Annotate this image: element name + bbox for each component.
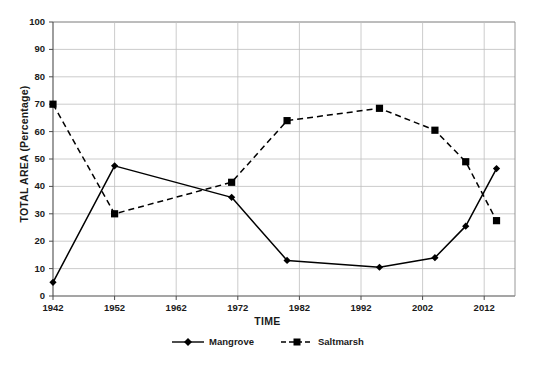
x-axis-tick-label: 1952 [95,302,135,313]
x-axis-tick-label: 2002 [403,302,443,313]
y-axis-tick-label: 0 [15,290,45,301]
y-axis-tick-label: 40 [15,180,45,191]
legend-label-saltmarsh: Saltmarsh [318,337,364,347]
y-axis-tick-label: 50 [15,153,45,164]
y-axis-tick-label: 100 [15,16,45,27]
y-axis-tick-label: 10 [15,263,45,274]
legend-item-mangrove[interactable]: Mangrove [171,336,254,348]
legend-item-saltmarsh[interactable]: Saltmarsh [280,336,364,348]
y-axis-tick-label: 20 [15,235,45,246]
y-axis-tick-label: 80 [15,71,45,82]
x-axis-tick-label: 1992 [341,302,381,313]
y-axis-tick-label: 90 [15,43,45,54]
line-chart-plot [0,0,535,367]
legend-label-mangrove: Mangrove [209,337,254,347]
x-axis-tick-label: 1982 [279,302,319,313]
legend-key-mangrove-icon [171,336,205,348]
x-axis-tick-label: 1962 [156,302,196,313]
y-axis-tick-label: 60 [15,126,45,137]
legend-key-saltmarsh-icon [280,336,314,348]
x-axis-tick-label: 1972 [218,302,258,313]
y-axis-tick-label: 30 [15,208,45,219]
x-axis-tick-label: 2012 [464,302,504,313]
x-axis-title: TIME [0,315,535,327]
x-axis-tick-label: 1942 [33,302,73,313]
y-axis-tick-label: 70 [15,98,45,109]
chart-legend: Mangrove Saltmarsh [0,336,535,348]
chart-figure: TOTAL AREA (Percentage) TIME 01020304050… [0,0,535,367]
